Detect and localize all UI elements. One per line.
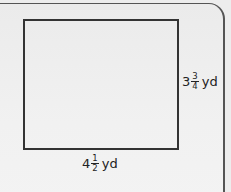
width-whole: 4 <box>82 156 90 171</box>
width-denominator: 2 <box>92 164 97 173</box>
width-unit: yd <box>102 156 118 171</box>
height-unit: yd <box>202 74 218 89</box>
height-denominator: 4 <box>192 82 197 91</box>
rectangle-shape <box>23 19 179 150</box>
width-fraction: 1 2 <box>91 154 98 173</box>
height-label: 3 3 4 yd <box>182 72 218 91</box>
height-fraction: 3 4 <box>191 72 198 91</box>
height-whole: 3 <box>182 74 190 89</box>
width-label: 4 1 2 yd <box>82 154 118 173</box>
